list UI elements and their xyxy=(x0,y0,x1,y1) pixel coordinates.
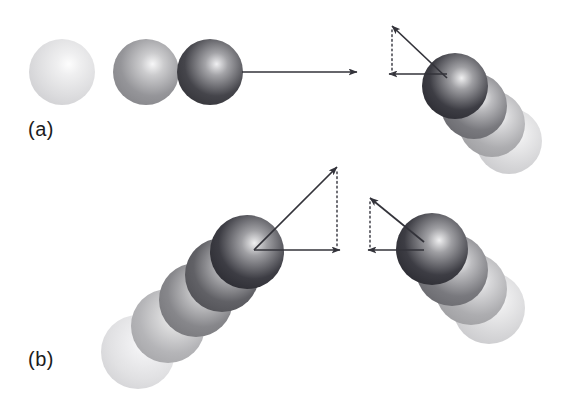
vectors-layer xyxy=(242,26,447,250)
ball-b-approach-4 xyxy=(210,215,284,289)
ball-a-approach-1 xyxy=(113,39,179,105)
physics-diagram-figure: (a) (b) xyxy=(0,0,573,404)
panel-label-a: (a) xyxy=(28,118,54,141)
vector-b-incoming-velocity-arrow xyxy=(254,167,337,250)
ball-a-approach-2 xyxy=(177,39,243,105)
diagram-canvas xyxy=(0,0,573,404)
ball-a-approach-0 xyxy=(29,39,95,105)
ball-b-rebound-3 xyxy=(396,213,468,285)
panel-label-b: (b) xyxy=(28,348,54,371)
spheres-layer xyxy=(29,39,542,389)
vector-a-rebound-velocity-arrow xyxy=(392,26,447,78)
